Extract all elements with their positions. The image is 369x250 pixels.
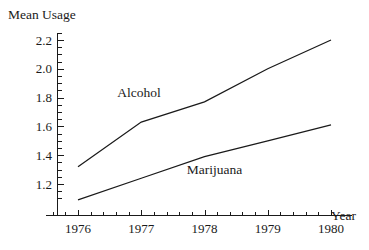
plot-area xyxy=(0,0,369,250)
x-axis-ticks xyxy=(54,210,332,216)
x-tick-label: 1979 xyxy=(245,222,291,235)
x-tick-label: 1978 xyxy=(182,222,228,235)
series-line-alcohol xyxy=(78,40,331,167)
series-label-alcohol: Alcohol xyxy=(117,86,161,100)
y-tick-label: 1.2 xyxy=(18,178,52,191)
y-tick-label: 1.4 xyxy=(18,149,52,162)
x-tick-label: 1977 xyxy=(118,222,164,235)
x-tick-label: 1980 xyxy=(308,222,354,235)
usage-line-chart: Mean Usage Year 1.21.41.61.82.02.2 19761… xyxy=(0,0,369,250)
axis-group xyxy=(46,33,352,216)
y-tick-label: 2.0 xyxy=(18,62,52,75)
y-tick-label: 1.8 xyxy=(18,91,52,104)
y-axis-ticks xyxy=(58,34,64,199)
y-tick-label: 1.6 xyxy=(18,120,52,133)
series-label-marijuana: Marijuana xyxy=(187,163,242,177)
y-tick-label: 2.2 xyxy=(18,34,52,47)
x-tick-label: 1976 xyxy=(55,222,101,235)
